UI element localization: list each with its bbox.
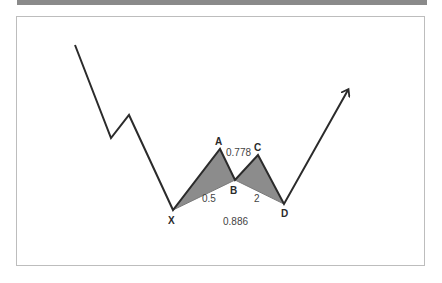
point-c-label: C xyxy=(254,142,261,153)
ratio-ac: 0.778 xyxy=(226,147,251,158)
point-x-label: X xyxy=(168,215,175,226)
ratio-xb: 0.5 xyxy=(202,193,216,204)
point-a-label: A xyxy=(215,136,222,147)
harmonic-pattern-diagram: X A B C D 0.778 0.5 2 0.886 xyxy=(0,0,442,283)
ratio-xd: 0.886 xyxy=(223,216,248,227)
ratio-bd: 2 xyxy=(254,193,260,204)
point-d-label: D xyxy=(281,208,288,219)
point-b-label: B xyxy=(230,185,237,196)
